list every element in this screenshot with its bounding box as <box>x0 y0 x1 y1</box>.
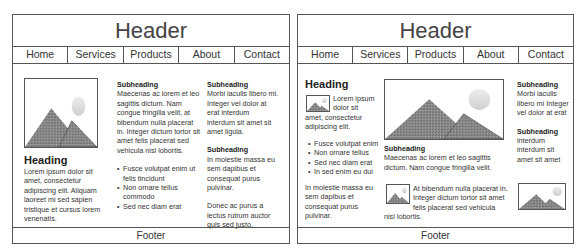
bullet-item: Sed nec diam erat <box>117 202 201 211</box>
col1-body: Lorem ipsum dolor sit amet, consectetur … <box>24 167 109 223</box>
bullet-item: Fusce volutpat enim ut felis tincidunt <box>117 164 201 183</box>
footer: Footer <box>13 227 289 243</box>
nav-about[interactable]: About <box>179 46 234 63</box>
nav-bar: Home Services Products About Contact <box>298 46 573 64</box>
bullet-item: Non ornare tellus <box>308 148 380 157</box>
col2-body-2: At bibendum nulla placerat in. Integer d… <box>384 184 508 222</box>
col2-text: Subheading Maecenas ac lorem et leo sagi… <box>384 144 506 172</box>
col1-intro: Lorem ipsum dolor sit amet, consectetur … <box>305 94 377 132</box>
col3-subheading-1: Subheading <box>207 80 279 89</box>
nav-products[interactable]: Products <box>124 46 179 63</box>
col2-subheading: Subheading <box>384 144 506 153</box>
nav-bar: Home Services Products About Contact <box>13 46 289 64</box>
col2-bullets: Fusce volutpat enim ut felis tincidunt N… <box>117 164 201 211</box>
col1-bullets: Fusce volutpat enim Non ornare tellus Se… <box>308 139 380 177</box>
nav-home[interactable]: Home <box>13 46 68 63</box>
col1-body: In molestie massa eu sem dapibus et cons… <box>305 183 375 221</box>
nav-products[interactable]: Products <box>408 46 463 63</box>
col3-body-1: Morbi iaculis libero mi Integer vel dolo… <box>517 89 569 117</box>
bullet-item: In sed enim eu dui <box>308 167 380 176</box>
bullet-item: Fusce volutpat enim <box>308 139 380 148</box>
left-layout-frame: Header Home Services Products About Cont… <box>12 14 290 244</box>
col1-heading: Heading <box>24 154 67 167</box>
col1-list: Fusce volutpat enim Non ornare tellus Se… <box>308 139 380 177</box>
col2: Subheading Maecenas ac lorem et leo sagi… <box>117 80 201 211</box>
col3-body-2: In molestie massa eu sem dapibus et cons… <box>207 155 279 193</box>
col3: Subheading Morbi iaculis libero mi. Inte… <box>207 80 279 230</box>
col3-subheading-2: Subheading <box>517 127 569 136</box>
col3: Subheading Morbi iaculis libero mi Integ… <box>517 80 569 164</box>
col3-body-3: Donec ac purus a lectus rutrum auctor qu… <box>207 201 279 229</box>
footer: Footer <box>298 227 573 243</box>
mountain-image-wide <box>384 79 504 140</box>
nav-services[interactable]: Services <box>353 46 408 63</box>
nav-home[interactable]: Home <box>298 46 353 63</box>
mountain-image-small-col3 <box>518 183 566 210</box>
nav-contact[interactable]: Contact <box>519 46 573 63</box>
bullet-item: Non ornare tellus commodo <box>117 183 201 202</box>
col2-subheading: Subheading <box>117 80 201 89</box>
header: Header <box>13 15 289 47</box>
header: Header <box>298 15 573 47</box>
col3-subheading-2: Subheading <box>207 145 279 154</box>
right-layout-frame: Header Home Services Products About Cont… <box>297 14 574 244</box>
col3-subheading-1: Subheading <box>517 80 569 89</box>
mountain-image <box>24 78 98 148</box>
col3-body-1: Morbi iaculis libero mi. Integer vel dol… <box>207 89 279 136</box>
nav-contact[interactable]: Contact <box>235 46 289 63</box>
col1-heading: Heading <box>305 78 348 91</box>
bullet-item: Sed nec diam erat <box>308 158 380 167</box>
col3-body-2: interdum interdum sit amet sit amet <box>517 136 569 164</box>
col2-body: Maecenas ac lorem et leo sagittis dictum… <box>117 89 201 155</box>
col2-body: Maecenas ac lorem et leo sagittis dictum… <box>384 153 506 172</box>
nav-services[interactable]: Services <box>68 46 123 63</box>
nav-about[interactable]: About <box>464 46 519 63</box>
